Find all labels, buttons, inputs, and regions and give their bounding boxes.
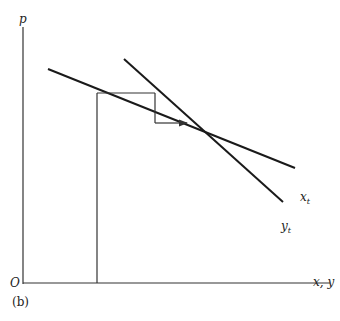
y-t-label-subscript: t <box>288 226 291 235</box>
quantity-axis-label: x, y <box>313 275 334 289</box>
x-t-label: xt <box>300 190 310 206</box>
x-t-label-subscript: t <box>307 197 310 206</box>
cobweb-diagram <box>0 0 340 321</box>
y-t-label-base: y <box>281 219 288 233</box>
y-t-label: yt <box>281 219 291 235</box>
p-axis-label: p <box>19 12 27 26</box>
y-t-curve <box>124 59 283 202</box>
x-t-curve <box>48 69 295 168</box>
x-t-label-base: x <box>300 190 307 204</box>
origin-label: O <box>10 276 20 290</box>
figure-caption: (b) <box>12 295 29 309</box>
